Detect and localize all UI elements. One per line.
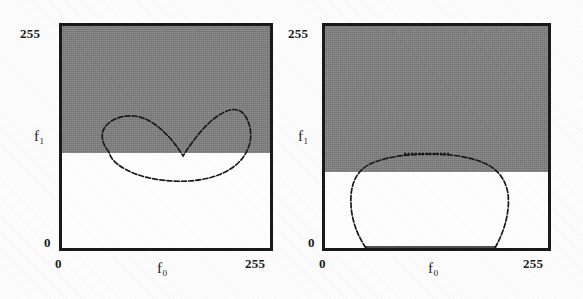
left-y-axis-label: f₁ [34,129,45,144]
left-plot-area [59,23,273,251]
left-contour-svg [62,26,270,248]
right-contour-path [351,154,509,248]
left-x-axis-min-tick: 0 [55,257,62,270]
right-plot-area [322,23,551,251]
right-y-axis-label: f₁ [298,129,309,144]
right-contour-svg [325,26,548,248]
left-y-axis-max-tick: 255 [20,27,40,40]
left-y-axis-min-tick: 0 [44,236,51,249]
right-x-axis-min-tick: 0 [319,257,326,270]
right-y-axis-min-tick: 0 [308,236,315,249]
left-x-axis-label: f₀ [157,261,168,276]
right-x-axis-max-tick: 255 [523,257,543,270]
right-x-axis-label: f₀ [428,261,439,276]
left-x-axis-max-tick: 255 [245,257,265,270]
right-y-axis-max-tick: 255 [288,27,308,40]
left-contour-path [102,109,251,181]
figure-canvas: 255 0 f₁ 0 255 f₀ 255 0 f₁ 0 255 f₀ [0,0,583,299]
